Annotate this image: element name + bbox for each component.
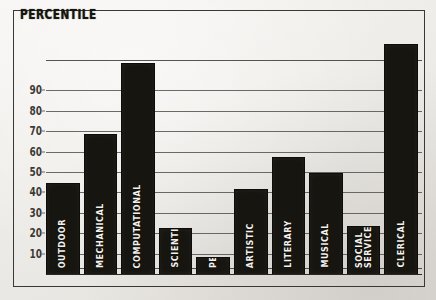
bar-label-mechanical: MECHANICAL: [96, 203, 105, 268]
y-axis-tick-label-10: 10: [29, 247, 42, 260]
y-axis-line: [45, 30, 46, 275]
bar-label-outdoor: OUTDOOR: [58, 219, 67, 268]
y-axis-tick-label-20: 20: [29, 227, 42, 240]
bar-social-service[interactable]: SOCIAL SERVICE: [347, 226, 381, 275]
y-axis-tick-label-40: 40: [29, 186, 42, 199]
bar-label-persuasive: PERSUASIVE: [209, 257, 218, 268]
bar-artistic[interactable]: ARTISTIC: [234, 189, 268, 275]
y-axis-tick-label-90: 90: [29, 84, 42, 97]
bar-scientific[interactable]: SCIENTIFIC: [159, 228, 193, 275]
y-axis-tick-label-70: 70: [29, 125, 42, 138]
bar-chart-figure: PERCENTILE 102030405060708090 OUTDOORMEC…: [0, 0, 436, 300]
bar-outdoor[interactable]: OUTDOOR: [46, 183, 80, 275]
bar-clerical[interactable]: CLERICAL: [384, 44, 418, 275]
bar-group: OUTDOORMECHANICALCOMPUTATIONALSCIENTIFIC…: [46, 30, 418, 275]
y-axis-tick-label-50: 50: [29, 166, 42, 179]
bar-label-computational: COMPUTATIONAL: [133, 184, 142, 268]
bar-computational[interactable]: COMPUTATIONAL: [121, 63, 155, 275]
bar-label-social-service: SOCIAL SERVICE: [355, 226, 373, 268]
plot-area: 102030405060708090 OUTDOORMECHANICALCOMP…: [46, 30, 418, 275]
bar-label-scientific: SCIENTIFIC: [171, 228, 180, 268]
page-title: PERCENTILE: [20, 6, 97, 23]
bar-persuasive[interactable]: PERSUASIVE: [196, 257, 230, 275]
bar-label-clerical: CLERICAL: [397, 220, 406, 268]
bar-label-literary: LITERARY: [284, 220, 293, 268]
y-axis-tick-label-60: 60: [29, 145, 42, 158]
y-axis-tick-label-30: 30: [29, 206, 42, 219]
bar-label-musical: MUSICAL: [321, 223, 330, 268]
y-axis-tick-label-80: 80: [29, 104, 42, 117]
bar-mechanical[interactable]: MECHANICAL: [84, 134, 118, 275]
bar-literary[interactable]: LITERARY: [272, 157, 306, 275]
bar-label-artistic: ARTISTIC: [246, 223, 255, 268]
bar-musical[interactable]: MUSICAL: [309, 173, 343, 275]
x-axis-baseline: [46, 274, 422, 275]
